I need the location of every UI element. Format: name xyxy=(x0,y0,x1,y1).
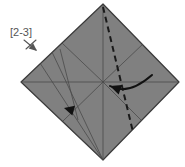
step-range-label: [2-3] xyxy=(10,26,32,38)
step-reference-marker xyxy=(24,40,37,51)
diagram-canvas: [2-3] xyxy=(0,0,185,167)
origami-diagram-figure: [2-3] xyxy=(0,0,185,167)
